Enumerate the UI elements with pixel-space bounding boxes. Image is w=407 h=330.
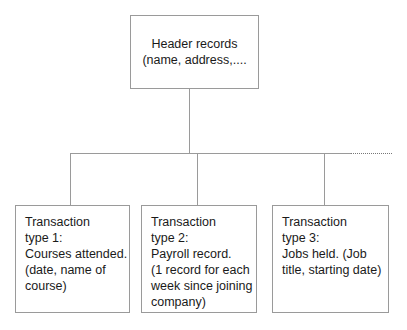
transaction-type-2-box: Transaction type 2: Payroll record. (1 r… xyxy=(141,205,257,313)
tx3-line: Transaction xyxy=(282,214,388,230)
tx1-line: course) xyxy=(25,278,129,294)
connector-trunk xyxy=(189,89,190,153)
tx1-line: Courses attended. xyxy=(25,246,129,262)
connector-horizontal xyxy=(70,153,351,154)
tx1-line: type 1: xyxy=(25,230,129,246)
tx1-line: (date, name of xyxy=(25,262,129,278)
tx2-line: (1 record for each xyxy=(151,262,256,278)
transaction-type-3-box: Transaction type 3: Jobs held. (Job titl… xyxy=(272,205,389,313)
header-records-box: Header records (name, address,.... xyxy=(130,15,259,89)
connector-drop-1 xyxy=(70,153,71,205)
tx2-line: Transaction xyxy=(151,214,256,230)
connector-drop-2 xyxy=(197,153,198,205)
tx3-line: Jobs held. (Job xyxy=(282,246,388,262)
tx3-line: type 3: xyxy=(282,230,388,246)
tx3-line: title, starting date) xyxy=(282,262,388,278)
connector-drop-3 xyxy=(324,153,325,205)
tx2-line: type 2: xyxy=(151,230,256,246)
connector-dotted-continuation xyxy=(351,153,392,154)
header-title: Header records xyxy=(151,36,237,52)
header-subtitle: (name, address,.... xyxy=(142,52,246,68)
tx2-line: Payroll record. xyxy=(151,246,256,262)
tx2-line: company) xyxy=(151,294,256,310)
tx2-line: week since joining xyxy=(151,278,256,294)
tx1-line: Transaction xyxy=(25,214,129,230)
transaction-type-1-box: Transaction type 1: Courses attended. (d… xyxy=(15,205,130,313)
